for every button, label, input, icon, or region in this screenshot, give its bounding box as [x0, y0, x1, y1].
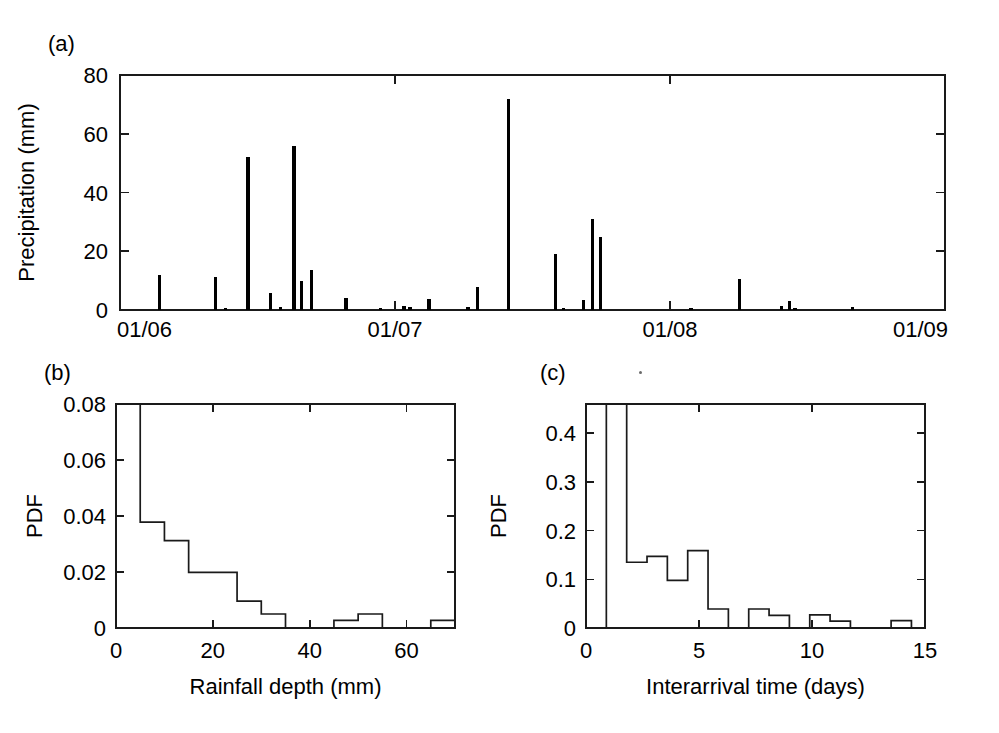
panel-a-x-ticklabel: 01/07: [367, 317, 422, 342]
panel-c-interarrival-time-pdf: 00.10.20.30.4051015Interarrival time (da…: [470, 370, 999, 733]
panel-a-y-axis-label: Precipitation (mm): [14, 103, 39, 281]
panel-c-x-axis-label: Interarrival time (days): [646, 674, 865, 699]
panel-c-y-ticklabel: 0.4: [545, 421, 576, 446]
panel-c-y-axis-label: PDF: [486, 494, 511, 538]
panel-b-x-ticklabel: 0: [110, 638, 122, 663]
panel-c-y-ticklabel: 0: [564, 616, 576, 641]
panel-c-x-ticklabel: 10: [800, 638, 824, 663]
panel-c-x-ticklabel: 0: [580, 638, 592, 663]
panel-a-y-ticklabel: 0: [96, 298, 108, 323]
panel-b-axes-frame: [116, 404, 455, 628]
panel-b-x-ticklabel: 20: [201, 638, 225, 663]
panel-a-x-ticklabel: 01/09: [893, 317, 948, 342]
panel-b-x-axis-label: Rainfall depth (mm): [190, 674, 382, 699]
panel-b-y-ticklabel: 0.06: [63, 448, 106, 473]
panel-b-x-ticklabel: 60: [394, 638, 418, 663]
panel-c-y-ticklabel: 0.2: [545, 519, 576, 544]
figure-canvas: (a) (b) (c) 02040608001/0601/0701/0801/0…: [0, 0, 999, 733]
panel-b-y-axis-label: PDF: [22, 494, 47, 538]
panel-a-axes-frame: [120, 75, 945, 310]
panel-c-y-ticklabel: 0.3: [545, 470, 576, 495]
panel-b-x-ticklabel: 40: [297, 638, 321, 663]
panel-a-precipitation-timeseries: 02040608001/0601/0701/0801/09Precipitati…: [0, 40, 999, 360]
panel-a-y-ticklabel: 20: [84, 239, 108, 264]
panel-c-x-ticklabel: 5: [693, 638, 705, 663]
panel-a-y-ticklabel: 80: [84, 63, 108, 88]
panel-b-y-ticklabel: 0.02: [63, 560, 106, 585]
panel-b-y-ticklabel: 0: [94, 616, 106, 641]
panel-a-y-ticklabel: 40: [84, 181, 108, 206]
panel-c-x-ticklabel: 15: [913, 638, 937, 663]
panel-c-histogram-outline: [606, 404, 911, 628]
panel-b-rainfall-depth-pdf: 00.020.040.060.080204060Rainfall depth (…: [0, 370, 500, 733]
panel-b-y-ticklabel: 0.04: [63, 504, 106, 529]
panel-b-histogram-outline: [116, 404, 455, 628]
panel-c-y-ticklabel: 0.1: [545, 567, 576, 592]
panel-a-y-ticklabel: 60: [84, 122, 108, 147]
panel-a-x-ticklabel: 01/08: [642, 317, 697, 342]
panel-c-axes-frame: [586, 404, 925, 628]
panel-a-x-ticklabel: 01/06: [117, 317, 172, 342]
panel-b-y-ticklabel: 0.08: [63, 392, 106, 417]
